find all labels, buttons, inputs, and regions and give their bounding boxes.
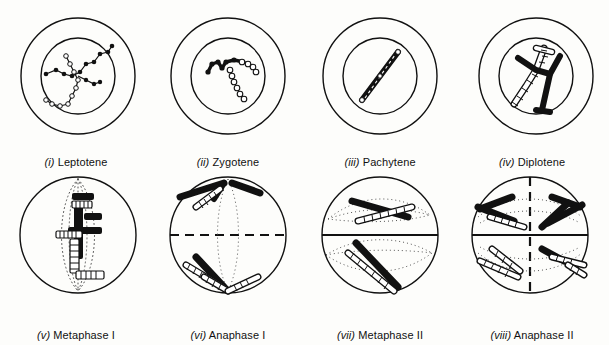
cell-diagram-leptotene: [0, 0, 152, 145]
cell-diagram-zygotene: [152, 0, 304, 145]
panel-number: (viii): [490, 329, 511, 341]
figure-row-prophase: (i) Leptotene: [0, 0, 609, 172]
panel-number: (iii): [344, 156, 359, 168]
cell-diagram-metaphase-1: [0, 173, 152, 318]
panel-label: Metaphase II: [358, 329, 423, 341]
panel-caption-zygotene: (ii) Zygotene: [152, 156, 304, 168]
panel-caption-metaphase-2: (vii) Metaphase II: [304, 329, 456, 341]
panel-label: Anaphase I: [209, 329, 266, 341]
paired-thread-open: [227, 59, 259, 102]
panel-leptotene: (i) Leptotene: [0, 0, 152, 172]
panel-zygotene: (ii) Zygotene: [152, 0, 304, 172]
cell-diagram-metaphase-2: [304, 173, 456, 318]
cell-diagram-pachytene: [304, 0, 456, 145]
bivalent-chromosome: [360, 50, 401, 103]
panel-metaphase-1: (v) Metaphase I: [0, 173, 152, 345]
chromatids-upper-right: [542, 197, 582, 227]
cell-membrane: [171, 18, 285, 134]
panel-anaphase-1: (vi) Anaphase I: [152, 173, 304, 345]
chromosome-upper-cell: [352, 201, 412, 223]
panel-caption-pachytene: (iii) Pachytene: [304, 156, 456, 168]
panel-number: (v): [37, 329, 50, 341]
cell-diagram-anaphase-2: [456, 173, 608, 318]
panel-label: Anaphase II: [514, 329, 574, 341]
panel-pachytene: (iii) Pachytene: [304, 0, 456, 172]
panel-number: (ii): [197, 156, 210, 168]
panel-number: (iv): [499, 156, 515, 168]
panel-caption-metaphase-1: (v) Metaphase I: [0, 329, 152, 341]
panel-number: (i): [44, 156, 54, 168]
panel-anaphase-2: (viii) Anaphase II: [456, 173, 608, 345]
panel-caption-leptotene: (i) Leptotene: [0, 156, 152, 168]
chromatids-lower-right: [542, 249, 584, 275]
nuclear-membrane: [191, 38, 265, 114]
figure-row-divisions: (v) Metaphase I: [0, 173, 609, 345]
panel-number: (vii): [337, 329, 355, 341]
panel-diplotene: (iv) Diplotene: [456, 0, 608, 172]
meiosis-figure: (i) Leptotene: [0, 0, 609, 345]
panel-label: Diplotene: [518, 156, 565, 168]
panel-number: (vi): [191, 329, 207, 341]
panel-caption-anaphase-2: (viii) Anaphase II: [456, 329, 608, 341]
chromosomes-top-pole: [180, 183, 260, 208]
panel-caption-anaphase-1: (vi) Anaphase I: [152, 329, 304, 341]
panel-label: Zygotene: [213, 156, 260, 168]
cell-diagram-diplotene: [456, 0, 608, 145]
panel-caption-diplotene: (iv) Diplotene: [456, 156, 608, 168]
cell-diagram-anaphase-1: [152, 173, 304, 318]
chromatids-upper-left: [478, 197, 524, 227]
panel-label: Pachytene: [363, 156, 416, 168]
panel-label: Leptotene: [58, 156, 108, 168]
chromatin-threads: [46, 46, 112, 106]
panel-label: Metaphase I: [53, 329, 115, 341]
panel-metaphase-2: (vii) Metaphase II: [304, 173, 456, 345]
